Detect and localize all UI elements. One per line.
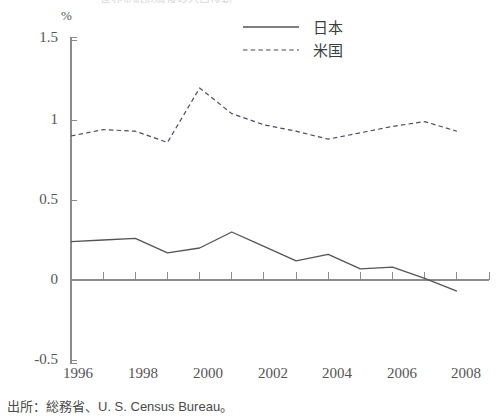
y-tick-label-2: 0.5 [6,192,58,207]
axis-group [71,37,489,363]
x-tick-label-2006: 2006 [387,366,417,381]
legend-swatch-dashed-icon [243,44,299,56]
y-tick-label-3: 0 [6,272,58,287]
x-tick-label-1998: 1998 [128,366,158,381]
series-line-usa [71,88,457,142]
x-tick-label-2000: 2000 [193,366,223,381]
chart-figure: 世界金融危機後の人口移動 % 日本 米国 1.5 1 0.5 0 -0.5 19… [0,0,497,419]
source-note: 出所：総務省、U. S. Census Bureau。 [7,396,233,415]
series-line-japan [71,232,457,291]
y-tick-label-1: 1 [6,112,58,127]
plot-area [0,0,497,419]
legend-label-usa: 米国 [313,39,343,60]
x-tick-label-2002: 2002 [258,366,288,381]
legend-label-japan: 日本 [313,16,343,37]
legend-swatch-solid-icon [243,21,299,33]
y-tick-label-4: -0.5 [2,352,58,367]
legend-item-usa: 米国 [243,38,433,61]
x-tick-label-2004: 2004 [322,366,352,381]
x-tick-label-2008: 2008 [451,366,481,381]
chart-legend: 日本 米国 [243,15,433,61]
y-tick-label-0: 1.5 [6,30,58,45]
legend-item-japan: 日本 [243,15,433,38]
x-tick-label-1996: 1996 [63,366,93,381]
